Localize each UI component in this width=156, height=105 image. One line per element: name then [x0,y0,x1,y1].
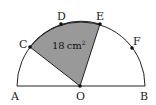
label-A: A [10,90,20,103]
label-D: D [57,10,66,23]
area-value: 18 [52,40,65,51]
area-exponent: 2 [82,39,86,46]
point-O [78,84,82,88]
label-B: B [140,90,148,103]
label-O: O [76,90,85,103]
label-F: F [133,35,141,48]
area-unit: cm [67,40,83,51]
label-E: E [96,10,104,23]
shaded-sector-COE [30,21,100,86]
label-C: C [19,38,27,51]
point-C [28,45,32,49]
shaded-area-label: 18cm2 [52,39,86,51]
semicircle-diagram: A O B C D E F 18cm2 [0,0,156,105]
